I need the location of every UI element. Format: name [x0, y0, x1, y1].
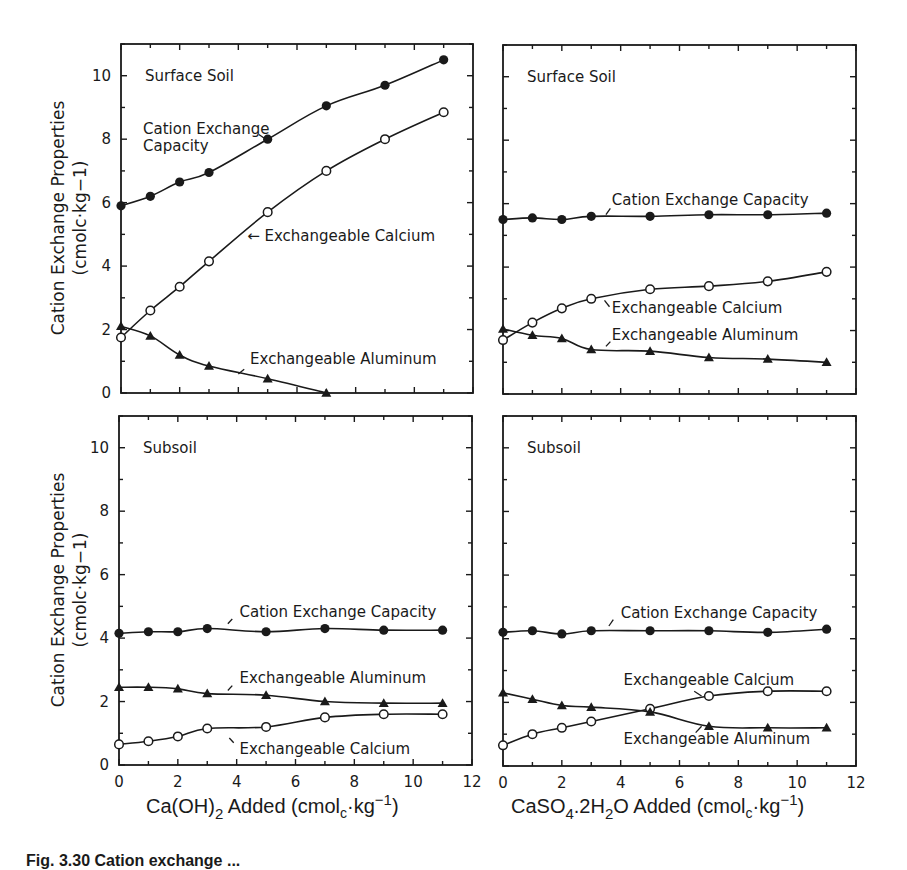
open-circle-marker	[203, 724, 212, 733]
series-exchangeable-aluminum: Exchangeable Aluminum	[498, 688, 832, 748]
series-line	[503, 629, 827, 634]
y-tick-label: 4	[99, 629, 109, 647]
x-tick-label: 10	[404, 773, 423, 791]
series-label: Exchangeable Aluminum	[240, 669, 427, 687]
filled-circle-marker	[528, 213, 537, 222]
series-line	[503, 213, 827, 219]
y-tick-label: 6	[99, 566, 109, 584]
filled-circle-marker	[144, 627, 153, 636]
open-circle-marker	[499, 336, 508, 345]
open-circle-marker	[499, 741, 508, 750]
series-label: ← Exchangeable Calcium	[247, 227, 435, 245]
series-label: Exchangeable Aluminum	[250, 350, 437, 368]
figure-caption: Fig. 3.30 Cation exchange ...	[26, 852, 240, 870]
series-label: Cation Exchange Capacity	[240, 603, 437, 621]
filled-triangle-marker	[498, 688, 508, 697]
open-circle-marker	[822, 687, 831, 696]
filled-circle-marker	[379, 626, 388, 635]
series-label: Exchangeable Calcium	[612, 299, 783, 317]
series-cation-exchange-capacity: Cation Exchange Capacity	[498, 191, 831, 224]
series-cation-exchange-capacity: Cation Exchange Capacity	[114, 603, 447, 637]
plot-frame	[121, 44, 473, 393]
chart-panel-bottom-right: 024681012SubsoilCation Exchange Capacity…	[498, 416, 866, 792]
y-tick-label: 10	[90, 439, 109, 457]
plot-frame	[503, 416, 856, 766]
x-tick-label: 4	[232, 773, 242, 791]
x-tick-label: 8	[734, 774, 744, 792]
open-circle-marker	[379, 710, 388, 719]
filled-circle-marker	[116, 201, 125, 210]
filled-circle-marker	[114, 629, 123, 638]
y-tick-label: 8	[101, 130, 111, 148]
y-axis-title-line2: (cmolc·kg−1)	[70, 161, 90, 276]
series-line	[119, 687, 443, 703]
filled-circle-marker	[822, 625, 831, 634]
filled-circle-marker	[645, 626, 654, 635]
y-tick-label: 2	[99, 693, 109, 711]
filled-triangle-marker	[145, 331, 155, 340]
series-exchangeable-aluminum: Exchangeable Aluminum	[498, 324, 832, 366]
x-tick-label: 0	[114, 773, 124, 791]
y-tick-label: 6	[101, 194, 111, 212]
label-leader-line	[604, 300, 609, 306]
open-circle-marker	[321, 713, 330, 722]
filled-circle-marker	[557, 629, 566, 638]
open-circle-marker	[174, 732, 183, 741]
filled-circle-marker	[498, 215, 507, 224]
panel-title: Subsoil	[527, 439, 581, 457]
filled-circle-marker	[322, 101, 331, 110]
x-tick-label: 6	[675, 774, 685, 792]
series-label: Cation Exchange Capacity	[621, 604, 818, 622]
series-label: Cation Exchange Capacity	[612, 191, 809, 209]
open-circle-marker	[558, 724, 567, 733]
label-leader-line	[228, 686, 232, 691]
series-label: Exchangeable Aluminum	[612, 326, 799, 344]
panel-title: Subsoil	[143, 439, 197, 457]
filled-circle-marker	[261, 627, 270, 636]
label-leader-line	[609, 620, 613, 626]
y-tick-label: 10	[92, 67, 111, 85]
panel-title: Surface Soil	[527, 68, 616, 86]
x-tick-label: 4	[616, 774, 626, 792]
series-line	[119, 629, 443, 634]
filled-circle-marker	[528, 626, 537, 635]
y-tick-label: 0	[99, 756, 109, 774]
chart-panel-bottom-left: 0246810024681012SubsoilCation Exchange C…	[90, 416, 482, 791]
open-circle-marker	[587, 717, 596, 726]
open-circle-marker	[117, 333, 126, 342]
open-circle-marker	[528, 318, 537, 327]
label-leader-line	[606, 208, 610, 214]
chart-panel-top-right: Surface SoilCation Exchange CapacityExch…	[498, 45, 856, 394]
open-circle-marker	[822, 268, 831, 277]
series-line	[503, 693, 827, 728]
filled-circle-marker	[320, 624, 329, 633]
x-tick-label: 6	[291, 773, 301, 791]
x-tick-label: 8	[350, 773, 360, 791]
filled-circle-marker	[763, 210, 772, 219]
chart-panel-top-left: 0246810Surface SoilCation ExchangeCapaci…	[92, 44, 473, 402]
filled-circle-marker	[204, 168, 213, 177]
panel-title: Surface Soil	[145, 67, 234, 85]
open-circle-marker	[528, 730, 537, 739]
filled-circle-marker	[763, 628, 772, 637]
x-axis-title-right: CaSO4.2H2O Added (cmolc·kg−1)	[511, 791, 804, 822]
series-exchangeable-aluminum: Exchangeable Aluminum	[116, 321, 437, 396]
filled-circle-marker	[175, 177, 184, 186]
open-circle-marker	[587, 295, 596, 304]
y-tick-label: 2	[101, 321, 111, 339]
y-axis-title-line2: (cmolc·kg−1)	[70, 533, 90, 648]
series-label: Exchangeable Calcium	[240, 740, 411, 758]
filled-circle-marker	[146, 192, 155, 201]
open-circle-marker	[705, 282, 714, 291]
open-circle-marker	[763, 277, 772, 286]
filled-circle-marker	[557, 215, 566, 224]
open-circle-marker	[322, 167, 331, 176]
y-tick-label: 4	[101, 257, 111, 275]
open-circle-marker	[175, 282, 184, 291]
series-label: Exchangeable Aluminum	[624, 730, 811, 748]
open-circle-marker	[646, 285, 655, 294]
filled-circle-marker	[587, 626, 596, 635]
filled-circle-marker	[704, 626, 713, 635]
open-circle-marker	[381, 135, 390, 144]
label-leader-line	[228, 619, 232, 624]
